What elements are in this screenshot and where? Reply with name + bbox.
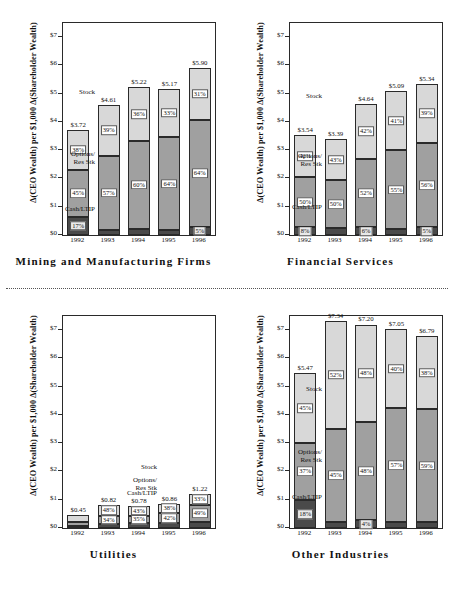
- x-axis-tick-label: 1994: [123, 236, 153, 244]
- bar-stack: 50%43%$3.39: [325, 139, 347, 235]
- segment-percent-label: 45%: [297, 403, 313, 413]
- segment-percent-label: 40%: [388, 364, 404, 374]
- segment-percent-label: 56%: [419, 180, 435, 190]
- bar-total-label: $5.09: [389, 82, 404, 89]
- segment-options-restricted-stock: 34%: [98, 516, 120, 524]
- segment-options-restricted-stock: [67, 522, 89, 526]
- segment-percent-label: 55%: [388, 185, 404, 195]
- x-axis-tick-label: 1996: [184, 236, 214, 244]
- segment-percent-label: 43%: [328, 155, 344, 165]
- segment-percent-label: 6%: [360, 226, 373, 236]
- segment-percent-label: 41%: [388, 116, 404, 126]
- segment-percent-label: 48%: [101, 506, 117, 516]
- legend-label-stock: Stock: [141, 463, 157, 471]
- segment-stock: 38%: [158, 504, 180, 513]
- segment-percent-label: 48%: [358, 369, 374, 379]
- legend-label-cash: Cash/LTIP: [292, 203, 322, 211]
- bar-stack: 5%64%31%$5.90: [189, 68, 211, 235]
- segment-percent-label: 64%: [192, 168, 208, 178]
- segment-stock: 39%: [416, 84, 438, 143]
- figure-four-panel-stacked-bars: Δ(CEO Wealth) per $1,000 Δ(Shareholder W…: [0, 0, 454, 591]
- legend-label-cash: Cash/LTIP: [65, 205, 95, 213]
- segment-cash-ltip: [158, 230, 180, 235]
- segment-percent-label: 57%: [388, 461, 404, 471]
- segment-stock: 36%: [128, 87, 150, 140]
- bar-total-label: $3.54: [298, 126, 313, 133]
- segment-percent-label: 8%: [299, 226, 312, 236]
- segment-percent-label: 39%: [419, 109, 435, 119]
- bar-total-label: $5.90: [192, 59, 207, 66]
- segment-cash-ltip: [325, 228, 347, 235]
- segment-stock: 43%: [128, 506, 150, 516]
- x-axis-tick-label: 1994: [350, 236, 380, 244]
- x-axis-tick-label: 1992: [289, 529, 319, 537]
- x-axis-tick-label: 1996: [184, 529, 214, 537]
- legend-label-cash: Cash/LTIP: [127, 489, 157, 497]
- bar-total-label: $4.64: [358, 95, 373, 102]
- panel-utilities: Δ(CEO Wealth) per $1,000 Δ(Shareholder W…: [0, 293, 227, 581]
- segment-percent-label: 52%: [358, 188, 374, 198]
- segment-stock: 38%: [416, 336, 438, 409]
- legend-label-options: Options/Res Stk: [298, 448, 322, 464]
- segment-stock: 52%: [325, 321, 347, 429]
- legend-label-stock: Stock: [306, 92, 322, 100]
- legend-label-options: Options/Res Stk: [71, 150, 95, 166]
- bar-stack: $0.45: [67, 515, 89, 528]
- segment-percent-label: 64%: [161, 179, 177, 189]
- bar-stack: 64%33%$5.17: [158, 89, 180, 235]
- panel-title: Mining and Manufacturing Firms: [0, 255, 227, 267]
- panel-divider: [6, 288, 448, 289]
- segment-options-restricted-stock: 52%: [355, 159, 377, 227]
- segment-options-restricted-stock: 56%: [416, 143, 438, 228]
- segment-percent-label: 59%: [419, 461, 435, 471]
- x-axis-tick-label: 1993: [93, 529, 123, 537]
- bar-stack: 55%41%$5.09: [385, 91, 407, 235]
- segment-cash-ltip: 5%: [189, 227, 211, 235]
- segment-percent-label: 57%: [101, 188, 117, 198]
- segment-options-restricted-stock: 45%: [325, 429, 347, 522]
- bar-total-label: $0.82: [101, 496, 116, 503]
- bar-total-label: $7.34: [328, 312, 343, 319]
- segment-cash-ltip: [325, 522, 347, 528]
- segment-options-restricted-stock: 49%: [189, 505, 211, 522]
- segment-cash-ltip: [385, 229, 407, 235]
- segment-percent-label: 36%: [131, 109, 147, 119]
- segment-percent-label: 42%: [161, 513, 177, 523]
- segment-cash-ltip: 18%: [294, 500, 316, 528]
- segment-percent-label: 37%: [297, 467, 313, 477]
- bar-total-label: $1.22: [192, 485, 207, 492]
- segment-cash-ltip: [189, 522, 211, 528]
- x-axis-tick-label: 1995: [153, 529, 183, 537]
- bar-total-label: $4.61: [101, 96, 116, 103]
- panel-mining-manufacturing: Δ(CEO Wealth) per $1,000 Δ(Shareholder W…: [0, 0, 227, 288]
- x-axis-tick-label: 1993: [93, 236, 123, 244]
- bar-stack: 34%48%$0.82: [98, 505, 120, 528]
- bar-stack: 59%38%$6.79: [416, 336, 438, 528]
- segment-cash-ltip: [128, 229, 150, 235]
- segment-cash-ltip: 6%: [355, 227, 377, 235]
- segment-options-restricted-stock: 35%: [128, 516, 150, 524]
- segment-percent-label: 35%: [131, 515, 147, 525]
- segment-stock: 45%: [294, 373, 316, 443]
- segment-stock: 43%: [325, 139, 347, 180]
- bar-total-label: $0.45: [71, 506, 86, 513]
- segment-cash-ltip: [158, 523, 180, 528]
- x-axis-tick-label: 1995: [380, 529, 410, 537]
- segment-percent-label: 4%: [360, 519, 373, 529]
- bar-total-label: $6.79: [419, 327, 434, 334]
- x-axis-tick-label: 1994: [123, 529, 153, 537]
- segment-percent-label: 33%: [161, 108, 177, 118]
- segment-cash-ltip: [98, 230, 120, 235]
- bar-total-label: $7.20: [358, 315, 373, 322]
- x-axis-tick-label: 1996: [411, 236, 441, 244]
- bar-total-label: $3.72: [71, 121, 86, 128]
- legend-label-stock: Stock: [79, 88, 95, 96]
- segment-percent-label: 45%: [70, 189, 86, 199]
- segment-stock: 33%: [189, 494, 211, 505]
- bar-total-label: $0.86: [162, 495, 177, 502]
- segment-cash-ltip: [385, 522, 407, 528]
- x-axis-tick-label: 1992: [289, 236, 319, 244]
- panel-title: Utilities: [0, 548, 227, 560]
- segment-percent-label: 38%: [419, 368, 435, 378]
- segment-cash-ltip: 4%: [355, 520, 377, 528]
